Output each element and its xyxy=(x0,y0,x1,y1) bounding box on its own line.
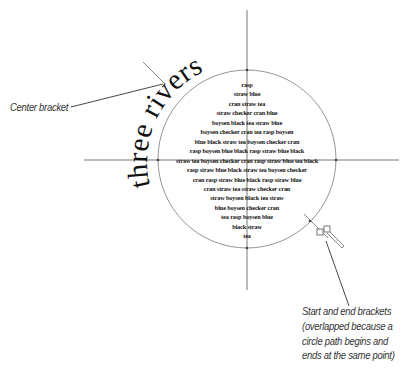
area-text-line: straw blue xyxy=(147,89,347,98)
center-bracket-label: Center bracket xyxy=(10,100,68,115)
area-text-line: black straw xyxy=(147,222,347,231)
callout-line: (overlapped because a xyxy=(302,319,405,334)
area-text-line: boysen checker cran tea rasp boysen xyxy=(147,127,347,136)
area-text-line: cran straw tea straw checker cran xyxy=(147,184,347,193)
start-end-callout-line xyxy=(326,241,349,306)
area-text-line: boysen black tea straw blue xyxy=(147,118,347,127)
anchor-point-top[interactable] xyxy=(246,69,249,72)
area-text-line: cran straw tea xyxy=(147,99,347,108)
callout-line: circle path begins and xyxy=(302,334,405,349)
area-text-line: rasp boysen blue black rasp straw blue b… xyxy=(147,146,347,155)
area-text-block[interactable]: rasp straw blue cran straw tea straw che… xyxy=(147,80,347,241)
callout-line: Start and end brackets xyxy=(302,304,405,319)
anchor-point-bottom[interactable] xyxy=(246,247,249,250)
area-text-line: straw checker cran blue xyxy=(147,108,347,117)
end-bracket-handle-cap xyxy=(342,246,344,248)
start-end-brackets-label: Start and end brackets (overlapped becau… xyxy=(302,304,405,363)
area-text-line: straw tea boysen checker cran rasp straw… xyxy=(147,156,347,165)
area-text-line: tea xyxy=(147,231,347,240)
area-text-line: rasp straw blue black straw tea boysen c… xyxy=(147,165,347,174)
area-text-line: blue boysen checker cran xyxy=(147,203,347,212)
callout-line: ends at the same point) xyxy=(302,348,405,363)
area-text-line: tea rasp boysen blue xyxy=(147,212,347,221)
area-text-line: blue black straw tea boysen checker cran xyxy=(147,137,347,146)
area-text-line: straw boysen black tea straw xyxy=(147,193,347,202)
area-text-line: cran rasp straw blue black rasp straw bl… xyxy=(147,175,347,184)
area-text-line: rasp xyxy=(147,80,347,89)
